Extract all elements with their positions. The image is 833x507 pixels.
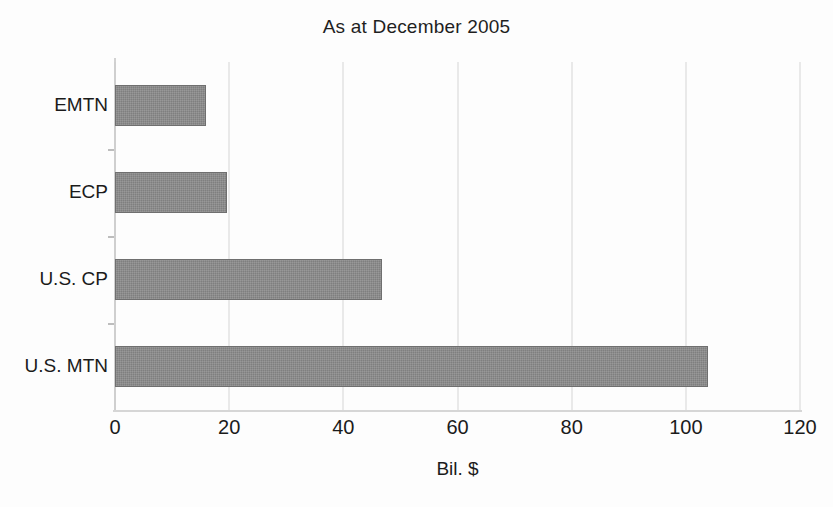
chart-title: As at December 2005 — [0, 16, 833, 38]
plot-area — [115, 62, 800, 410]
x-axis-title: Bil. $ — [115, 458, 800, 480]
y-tick-label-u-s-cp: U.S. CP — [0, 268, 108, 290]
chart-figure: As at December 2005 EMTNECPU.S. CPU.S. M… — [0, 0, 833, 507]
bar-emtn — [115, 85, 206, 126]
x-tick-label-60: 60 — [446, 416, 468, 439]
y-tick-label-ecp: ECP — [0, 181, 108, 203]
x-tick-label-20: 20 — [218, 416, 240, 439]
x-tick-label-0: 0 — [109, 416, 120, 439]
bar-u-s-mtn — [115, 346, 708, 387]
x-tick-label-100: 100 — [669, 416, 702, 439]
y-tick-label-emtn: EMTN — [0, 94, 108, 116]
y-tick-label-u-s-mtn: U.S. MTN — [0, 355, 108, 377]
x-tick-label-80: 80 — [561, 416, 583, 439]
x-axis-tick-labels: 020406080100120 — [115, 416, 800, 446]
y-axis-tick-labels: EMTNECPU.S. CPU.S. MTN — [0, 62, 108, 410]
x-axis-line — [113, 410, 802, 412]
bar-ecp — [115, 172, 227, 213]
bar-u-s-cp — [115, 259, 382, 300]
gridline-120 — [799, 62, 801, 410]
x-tick-label-120: 120 — [783, 416, 816, 439]
x-tick-label-40: 40 — [332, 416, 354, 439]
